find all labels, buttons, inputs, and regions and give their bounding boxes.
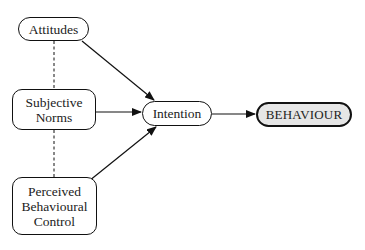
- node-behaviour: BEHAVIOUR: [256, 102, 352, 127]
- node-attitudes: Attitudes: [18, 17, 89, 41]
- node-perceived-behavioural-control: Perceived Behavioural Control: [12, 177, 97, 235]
- node-intention: Intention: [142, 101, 212, 126]
- node-subjective-norms: Subjective Norms: [12, 89, 96, 130]
- arrow-pbc-to-intention: [89, 127, 156, 181]
